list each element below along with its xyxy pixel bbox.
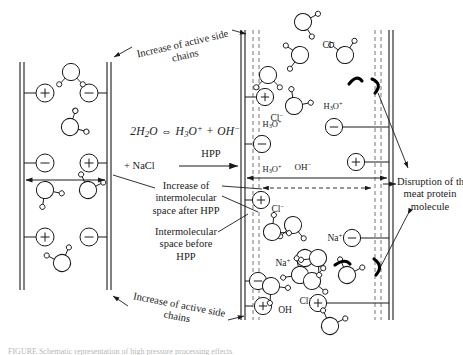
after-space-measure xyxy=(247,178,387,188)
ion-cl-4: Cl− xyxy=(293,295,319,307)
ion-na-1: Na+ xyxy=(322,232,348,244)
ion-na-2: Na+ xyxy=(270,257,296,269)
diagram-root: Increase of active side chains 2H2O ⇔ H3… xyxy=(0,0,463,355)
ion-oh-1: OH− xyxy=(288,161,318,172)
ion-cl-2: Cl− xyxy=(316,39,342,51)
ion-h3o-2: H3O+ xyxy=(256,163,288,174)
charge-node xyxy=(36,154,54,172)
charge-node xyxy=(256,88,273,105)
ion-h3o-1: H3O+ xyxy=(256,118,288,129)
label-increase-intermolecular-space: Increase of intermolecular space after H… xyxy=(148,180,224,217)
charge-node xyxy=(325,118,342,135)
charge-node xyxy=(253,135,270,152)
charge-node xyxy=(347,153,364,170)
charge-node xyxy=(254,297,271,314)
charge-node xyxy=(36,228,54,246)
charge-node xyxy=(80,154,98,172)
figure-caption: FIGURE Schematic representation of high … xyxy=(8,347,458,355)
ion-h3o-3: H3O+ xyxy=(317,100,349,111)
label-water-dissociation-equation: 2H2O ⇔ H3O+ + OH− xyxy=(118,110,214,153)
label-disruption-meat-protein: Disruption of the meat protein molecule xyxy=(397,176,463,213)
diagram-canvas xyxy=(0,0,463,355)
label-nacl: + NaCl xyxy=(124,160,172,172)
label-hpp-arrow: HPP xyxy=(195,148,227,160)
label-intermolecular-space-before: Intermolecular space before HPP xyxy=(150,226,222,263)
left-charge-group xyxy=(36,84,98,246)
equation-text: 2H2O ⇔ H3O+ + OH− xyxy=(130,125,240,137)
charge-node xyxy=(80,228,98,246)
ion-cl-3: Cl− xyxy=(265,203,291,215)
charge-node xyxy=(36,84,54,102)
